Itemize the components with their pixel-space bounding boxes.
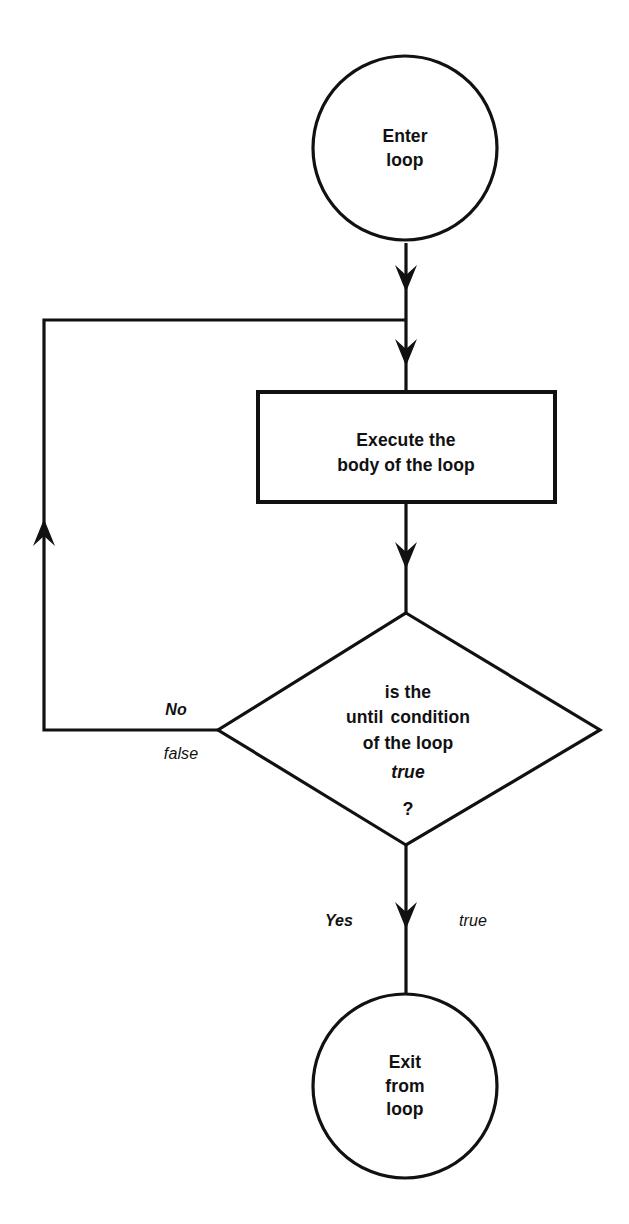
start-node-label-line-1: Enter [382,128,427,146]
edge-label-false: false [164,746,198,762]
decision-label-line-3: of the loop [363,735,454,753]
edge-label-true: true [459,913,487,929]
end-node-label-line-3: loop [385,1101,424,1119]
process-node-label-line-2: body of the loop [337,457,475,475]
end-node-label-line-2: from [385,1077,424,1095]
decision-text-until-condition: untilcondition [346,709,470,727]
end-node-label-line-1: Exit [385,1054,424,1072]
decision-text-is-the: is the [385,684,431,702]
flowchart-graphics [0,0,629,1224]
start-node-label: Enter loop [382,128,427,169]
decision-label-line-1: is the [385,684,431,702]
edge-label-yes: Yes [325,913,353,929]
decision-question-mark: ? [402,800,413,818]
end-node-label: Exit from loop [385,1054,424,1119]
decision-label-line-4: true [391,764,424,782]
decision-text-true: true [391,764,424,782]
process-node-label-line-1: Execute the [337,432,475,450]
flowchart-canvas: Enter loop Execute the body of the loop … [0,0,629,1224]
decision-keyword-until: until [346,707,383,727]
decision-text-condition-word: condition [383,707,470,727]
decision-label-line-2: untilcondition [346,709,470,727]
decision-text-of-the-loop: of the loop [363,735,454,753]
process-node-label: Execute the body of the loop [337,432,475,474]
start-node-label-line-2: loop [382,151,427,169]
edge-label-no: No [165,702,187,718]
